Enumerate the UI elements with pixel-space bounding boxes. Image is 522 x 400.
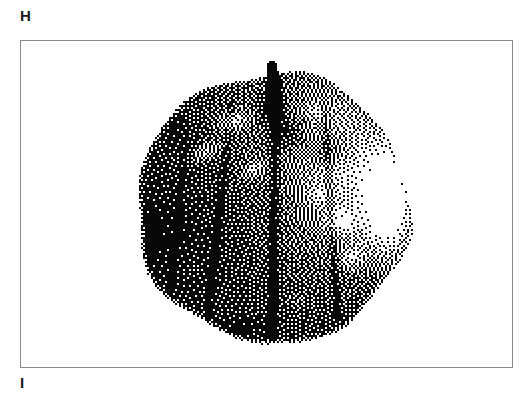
panel-label-h: H bbox=[20, 8, 31, 23]
panel-label-i: I bbox=[20, 375, 24, 390]
dithered-fruit-image bbox=[21, 41, 512, 367]
figure-panel: H I bbox=[0, 0, 522, 400]
figure-image-frame bbox=[20, 40, 513, 368]
